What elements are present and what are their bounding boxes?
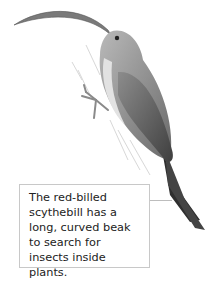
caption-connector-line [150, 200, 172, 201]
caption-text: The red-billed scythebill has a long, cu… [29, 191, 131, 279]
caption-box: The red-billed scythebill has a long, cu… [19, 184, 150, 268]
